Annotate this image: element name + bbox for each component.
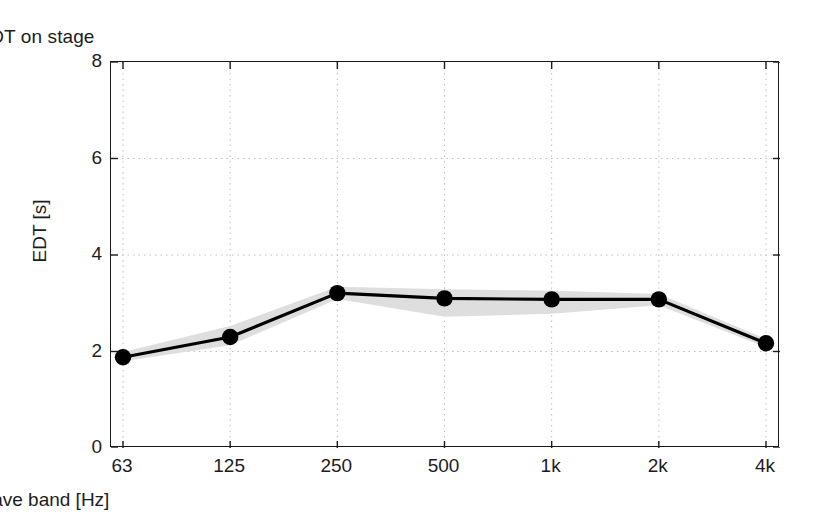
data-point-marker bbox=[543, 291, 559, 307]
y-tick-label: 8 bbox=[38, 50, 102, 72]
data-point-marker bbox=[436, 290, 452, 306]
y-tick-label: 0 bbox=[38, 436, 102, 458]
x-tick-label: 500 bbox=[428, 455, 460, 477]
x-axis-title-text: Octave band [Hz] bbox=[0, 489, 109, 510]
plot-svg bbox=[111, 62, 780, 448]
y-tick-label: 6 bbox=[38, 147, 102, 169]
plot-area bbox=[110, 61, 779, 447]
data-point-marker bbox=[222, 329, 238, 345]
grid-lines bbox=[111, 62, 780, 448]
x-tick-label: 125 bbox=[213, 455, 245, 477]
x-tick-label: 250 bbox=[320, 455, 352, 477]
data-point-markers bbox=[115, 285, 774, 366]
data-point-marker bbox=[651, 291, 667, 307]
x-axis-title: Octave band [Hz] bbox=[0, 489, 818, 511]
data-point-marker bbox=[329, 285, 345, 301]
y-tick-label: 2 bbox=[38, 340, 102, 362]
figure-canvas: EDT on stage EDT [s] 02468 631252505001k… bbox=[0, 0, 818, 526]
y-tick-label: 4 bbox=[38, 243, 102, 265]
x-tick-label: 4k bbox=[755, 455, 775, 477]
x-tick-label: 2k bbox=[648, 455, 668, 477]
x-tick-label: 63 bbox=[111, 455, 132, 477]
chart-title: EDT on stage bbox=[0, 26, 818, 48]
x-tick-label: 1k bbox=[541, 455, 561, 477]
chart-title-text: EDT on stage bbox=[0, 26, 95, 47]
data-point-marker bbox=[758, 335, 774, 351]
